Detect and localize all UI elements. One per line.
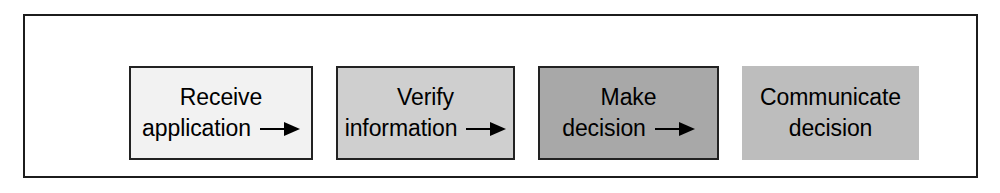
process-step-communicate-decision[interactable]: Communicate decision bbox=[742, 66, 919, 160]
process-step-label-line1: Verify bbox=[397, 82, 454, 113]
process-step-receive-application[interactable]: Receive application bbox=[129, 66, 313, 160]
process-step-label-line1: Make bbox=[601, 82, 657, 113]
process-step-make-decision[interactable]: Make decision bbox=[538, 66, 719, 160]
flow-arrow-icon bbox=[260, 122, 300, 136]
diagram-canvas: Receive application Verify information bbox=[0, 0, 1000, 193]
process-flow-row: Receive application Verify information bbox=[25, 16, 976, 176]
diagram-outer-frame: Receive application Verify information bbox=[23, 14, 978, 178]
process-step-label-line2-with-arrow: information bbox=[345, 113, 507, 144]
process-step-label-line2-with-arrow: decision bbox=[562, 113, 695, 144]
process-step-verify-information[interactable]: Verify information bbox=[336, 66, 515, 160]
process-step-label-line2-with-arrow: application bbox=[142, 113, 300, 144]
process-step-label-line2: application bbox=[142, 113, 251, 144]
process-step-label-line2: information bbox=[345, 113, 458, 144]
flow-arrow-icon bbox=[466, 122, 506, 136]
process-step-label-line2: decision bbox=[562, 113, 646, 144]
process-step-label-line1: Receive bbox=[180, 82, 262, 113]
process-step-label-line2: decision bbox=[789, 113, 873, 144]
flow-arrow-icon bbox=[655, 122, 695, 136]
process-step-label-line1: Communicate bbox=[760, 82, 901, 113]
